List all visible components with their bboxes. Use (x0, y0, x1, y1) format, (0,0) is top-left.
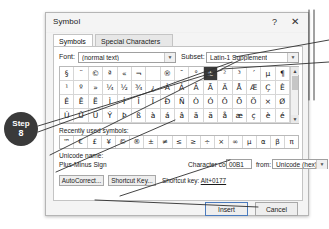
from-combobox[interactable]: Unicode (hex) ▼ (272, 159, 328, 169)
grid-cell[interactable]: Ö (247, 95, 261, 109)
scroll-down-icon[interactable]: ▼ (291, 115, 299, 123)
grid-cell[interactable]: Î (132, 95, 146, 109)
grid-cell[interactable]: Ì (103, 95, 117, 109)
grid-cell[interactable]: « (118, 67, 132, 81)
grid-cell[interactable]: Õ (233, 95, 247, 109)
grid-cell[interactable]: Æ (247, 81, 261, 95)
grid-cell[interactable]: à (146, 109, 160, 123)
scroll-up-icon[interactable]: ▲ (291, 67, 299, 75)
grid-cell[interactable]: × (261, 95, 275, 109)
grid-cell[interactable]: Ð (161, 95, 175, 109)
grid-cell[interactable]: ® (161, 67, 175, 81)
grid-cell[interactable]: Ï (146, 95, 160, 109)
grid-cell[interactable]: Ç (261, 81, 275, 95)
recent-symbol[interactable]: ÷ (201, 136, 215, 148)
recently-used-grid[interactable]: ™ € £ ¥ © ® ± ≠ ≤ ≥ ÷ × ∞ µ α β π (59, 135, 299, 149)
recent-symbol[interactable]: ± (144, 136, 158, 148)
grid-cell[interactable]: ¯ (175, 67, 189, 81)
grid-scrollbar[interactable]: ▲ ▼ (290, 67, 298, 123)
grid-cell[interactable]: ³ (233, 67, 247, 81)
subset-combobox[interactable]: Latin-1 Supplement ▼ (206, 52, 299, 63)
grid-cell[interactable]: Ú (60, 109, 74, 123)
grid-cell[interactable]: ª (103, 67, 117, 81)
grid-cell[interactable]: Á (175, 81, 189, 95)
grid-cell[interactable]: Í (118, 95, 132, 109)
insert-button[interactable]: Insert (205, 202, 248, 216)
grid-cell[interactable]: ¿ (146, 81, 160, 95)
chevron-down-icon[interactable]: ▼ (316, 160, 327, 169)
grid-cell[interactable]: ã (189, 109, 203, 123)
grid-cell[interactable]: Ü (89, 109, 103, 123)
grid-cell[interactable]: Ô (218, 95, 232, 109)
recent-symbol[interactable]: µ (243, 136, 257, 148)
character-code-input[interactable]: 00B1 (226, 159, 252, 169)
cancel-button[interactable]: Cancel (255, 202, 298, 216)
grid-cell[interactable]: Ñ (175, 95, 189, 109)
autocorrect-button[interactable]: AutoCorrect... (59, 175, 104, 186)
recent-symbol[interactable]: π (285, 136, 298, 148)
grid-cell[interactable]: Û (74, 109, 88, 123)
grid-cell[interactable]: ² (218, 67, 232, 81)
recent-symbol[interactable]: ™ (60, 136, 74, 148)
grid-cell[interactable]: À (161, 81, 175, 95)
recent-symbol[interactable]: £ (88, 136, 102, 148)
grid-cell[interactable]: Ø (276, 95, 290, 109)
recent-symbol[interactable]: © (116, 136, 130, 148)
grid-cell[interactable]: ½ (118, 81, 132, 95)
grid-cell[interactable]: ¼ (103, 81, 117, 95)
grid-cell[interactable]: Þ (118, 109, 132, 123)
grid-cell[interactable]: » (89, 81, 103, 95)
grid-cell[interactable]: ¶ (276, 67, 290, 81)
grid-cell[interactable]: å (218, 109, 232, 123)
recent-symbol[interactable]: ¥ (102, 136, 116, 148)
grid-cell[interactable]: É (60, 95, 74, 109)
recent-symbol[interactable]: ≠ (158, 136, 172, 148)
recent-symbol[interactable]: ≤ (173, 136, 187, 148)
grid-cell[interactable]: Ä (218, 81, 232, 95)
grid-cell[interactable]: è (261, 109, 275, 123)
grid-cell[interactable]: © (89, 67, 103, 81)
help-icon[interactable]: ? (267, 15, 282, 29)
grid-cell[interactable]: È (276, 81, 290, 95)
grid-cell[interactable]: ¹ (60, 81, 74, 95)
grid-cell[interactable]: ¬ (132, 67, 146, 81)
grid-cell[interactable]: é (276, 109, 290, 123)
grid-cell[interactable]: ° (189, 67, 203, 81)
grid-cell[interactable]: ç (247, 109, 261, 123)
grid-cell[interactable]: Â (189, 81, 203, 95)
scrollbar-thumb[interactable] (292, 76, 298, 90)
grid-cell[interactable]: § (60, 67, 74, 81)
grid-cell[interactable]: µ (261, 67, 275, 81)
grid-cell[interactable]: Ê (74, 95, 88, 109)
grid-cell[interactable]: ´ (247, 67, 261, 81)
close-icon[interactable]: ✕ (287, 15, 302, 29)
recent-symbol[interactable]: β (271, 136, 285, 148)
recent-symbol[interactable]: ® (130, 136, 144, 148)
recent-symbol[interactable]: ≥ (187, 136, 201, 148)
grid-cell[interactable]: â (175, 109, 189, 123)
grid-cell-selected[interactable]: ± (204, 67, 218, 81)
grid-cell[interactable]: ¨ (74, 67, 88, 81)
grid-cell[interactable]: ­ (146, 67, 160, 81)
shortcut-key-button[interactable]: Shortcut Key... (108, 175, 156, 186)
chevron-down-icon[interactable]: ▼ (164, 53, 175, 62)
grid-cell[interactable]: Å (233, 81, 247, 95)
recent-symbol[interactable]: ∞ (229, 136, 243, 148)
grid-cell[interactable]: º (74, 81, 88, 95)
font-combobox[interactable]: (normal text) ▼ (78, 52, 176, 63)
recent-symbol[interactable]: α (257, 136, 271, 148)
grid-cell[interactable]: Ý (103, 109, 117, 123)
grid-cell[interactable]: ¾ (132, 81, 146, 95)
chevron-down-icon[interactable]: ▼ (287, 53, 298, 62)
grid-cell[interactable]: Ó (204, 95, 218, 109)
grid-cell[interactable]: Ë (89, 95, 103, 109)
grid-cell[interactable]: ß (132, 109, 146, 123)
grid-cell[interactable]: á (161, 109, 175, 123)
grid-cell[interactable]: æ (233, 109, 247, 123)
recent-symbol[interactable]: € (74, 136, 88, 148)
recent-symbol[interactable]: × (215, 136, 229, 148)
character-grid[interactable]: § ¨ © ª « ¬ ­ ® ¯ ° ± ² ³ ´ µ (59, 66, 299, 124)
grid-cell[interactable]: Ò (189, 95, 203, 109)
grid-cell[interactable]: Ã (204, 81, 218, 95)
grid-cell[interactable]: ä (204, 109, 218, 123)
